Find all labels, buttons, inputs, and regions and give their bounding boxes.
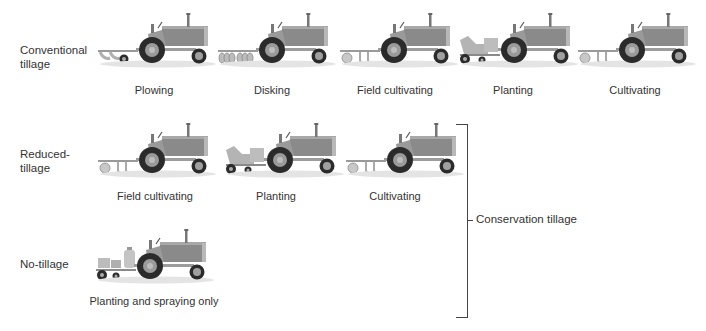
conservation-tillage-label: Conservation tillage <box>476 213 577 225</box>
tractor-plowing <box>96 10 216 70</box>
row-label-no-tillage: No-tillage <box>20 257 69 271</box>
caption-cultivating: Cultivating <box>609 84 660 96</box>
tractor-disking <box>216 10 336 70</box>
caption-plowing: Plowing <box>135 84 174 96</box>
row-label-conventional-tillage: Conventional tillage <box>20 43 87 71</box>
caption-planting-and-spraying: Planting and spraying only <box>89 295 218 307</box>
tractor-reduced-cultivating <box>344 120 464 180</box>
caption-reduced-cultivating: Cultivating <box>369 190 420 202</box>
caption-disking: Disking <box>254 84 290 96</box>
caption-reduced-field-cultivating: Field cultivating <box>117 190 193 202</box>
row-label-reduced-tillage: Reduced- tillage <box>20 147 70 175</box>
caption-field-cultivating: Field cultivating <box>357 84 433 96</box>
tractor-field-cultivating <box>338 10 458 70</box>
caption-planting: Planting <box>493 84 533 96</box>
tractor-cultivating <box>576 10 696 70</box>
conservation-tillage-bracket <box>456 124 468 318</box>
tractor-planting <box>458 10 578 70</box>
caption-reduced-planting: Planting <box>256 190 296 202</box>
bracket-tick <box>467 220 473 221</box>
tractor-planting-spraying <box>94 226 214 286</box>
tractor-reduced-planting <box>224 120 344 180</box>
tractor-reduced-field-cultivating <box>96 120 216 180</box>
